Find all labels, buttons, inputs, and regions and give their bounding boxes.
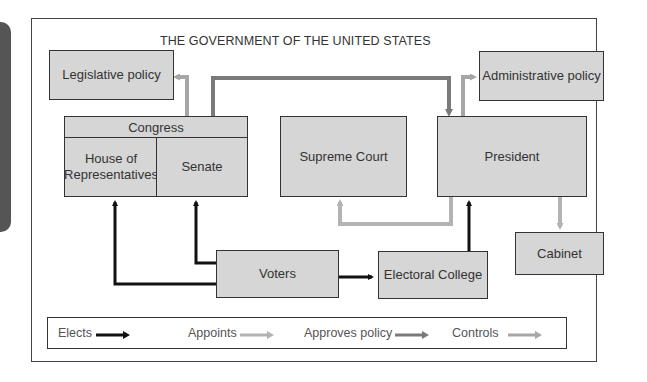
node-legislative-policy: Legislative policy xyxy=(49,50,174,100)
node-house-of-representatives: House of Representatives xyxy=(64,137,158,197)
legend-arrow-elects xyxy=(96,330,132,340)
node-label: Voters xyxy=(259,266,296,282)
node-supreme-court: Supreme Court xyxy=(280,116,407,197)
node-senate: Senate xyxy=(156,137,248,197)
legend-arrow-approves-policy xyxy=(395,330,431,340)
node-label-line2: Representatives xyxy=(64,167,158,183)
node-label: Administrative policy xyxy=(482,68,601,84)
legend-label-controls: Controls xyxy=(452,326,499,340)
node-electoral-college: Electoral College xyxy=(378,251,488,299)
node-cabinet: Cabinet xyxy=(515,232,604,275)
edge-president-administrative-policy xyxy=(463,77,474,116)
edge-voters-senate xyxy=(196,202,217,263)
node-voters: Voters xyxy=(216,250,339,298)
node-label: Cabinet xyxy=(537,246,582,262)
node-label-line1: House of xyxy=(85,151,137,167)
edge-congress-legislative-policy xyxy=(176,77,187,116)
legend-label-elects: Elects xyxy=(58,326,92,340)
node-label: Supreme Court xyxy=(299,149,387,165)
legend-label-appoints: Appoints xyxy=(188,326,237,340)
node-administrative-policy: Administrative policy xyxy=(479,51,604,101)
node-label: Legislative policy xyxy=(62,67,160,83)
node-label: Electoral College xyxy=(384,267,482,283)
node-label: Congress xyxy=(128,120,184,136)
edge-voters-house xyxy=(115,202,217,284)
legend-arrow-controls xyxy=(508,330,544,340)
node-label: President xyxy=(485,149,540,165)
node-president: President xyxy=(437,116,587,197)
legend: Elects Appoints Approves policy Controls xyxy=(47,317,567,349)
legend-arrow-appoints xyxy=(240,330,276,340)
legend-label-approves-policy: Approves policy xyxy=(304,326,392,340)
node-label: Senate xyxy=(181,159,222,175)
node-congress: Congress xyxy=(64,116,248,139)
edge-president-supreme-court xyxy=(340,197,451,224)
